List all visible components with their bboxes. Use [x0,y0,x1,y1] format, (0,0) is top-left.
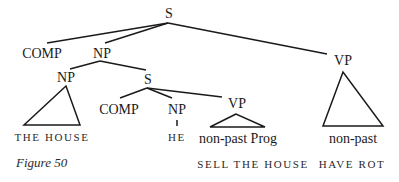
leaf-non-past: non-past [329,131,377,146]
leaf-he: HE [168,131,186,143]
node-root-s: S [165,6,173,21]
leaf-non-past-prog: non-past Prog [199,131,277,146]
leaf-the-house: THE HOUSE [14,131,89,143]
edge-np-s [100,61,146,70]
node-np-top: NP [93,46,111,61]
edge-s-np [105,23,168,43]
node-vp-mid: VP [228,96,246,111]
node-np-mid: NP [168,102,186,117]
edge-s-comp-mid [120,88,147,98]
node-comp-top: COMP [22,46,62,61]
node-np-left: NP [57,70,75,85]
gloss-have-rot: HAVE ROT [319,158,386,170]
triangle-vp-right [323,72,383,126]
triangle-vp-mid [210,114,265,127]
triangle-np-left [24,86,80,125]
figure-caption: Figure 50 [15,155,68,170]
node-s-embedded: S [144,72,152,87]
syntax-tree-diagram: S COMP NP VP NP S COMP NP VP THE HOUSE H… [0,0,399,182]
tree-edges [24,23,383,127]
node-comp-mid: COMP [99,102,139,117]
edge-np-np [70,61,100,69]
edge-s-comp [47,23,168,43]
gloss-sell-the-house: SELL THE HOUSE [197,158,309,170]
node-vp-right: VP [334,53,352,68]
edge-s-vp [168,23,327,54]
